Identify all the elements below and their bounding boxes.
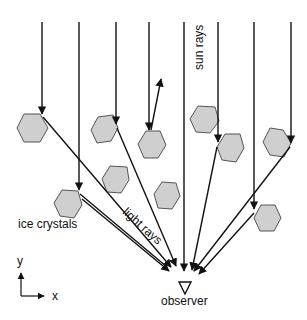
y-axis-label: y — [17, 254, 23, 268]
ice-crystal — [190, 106, 219, 133]
ice-crystal — [254, 205, 281, 231]
axes-indicator — [21, 273, 44, 296]
ice-crystal — [91, 115, 118, 143]
ice-crystal — [154, 182, 180, 209]
observer-marker — [179, 282, 191, 294]
rays — [42, 22, 291, 274]
x-axis-label: x — [52, 289, 58, 303]
ice-crystal-halo-diagram: sun rays ice crystals light rays observe… — [0, 0, 307, 320]
ice-crystal — [217, 134, 244, 162]
ice-crystals-label: ice crystals — [18, 217, 77, 231]
ice-crystal — [54, 190, 82, 218]
ice-crystal — [263, 128, 291, 157]
ice-crystals — [17, 106, 291, 231]
ice-crystal — [102, 166, 129, 193]
sun-rays-label: sun rays — [192, 25, 206, 70]
observer-label: observer — [161, 294, 208, 308]
ice-crystal — [138, 131, 166, 158]
